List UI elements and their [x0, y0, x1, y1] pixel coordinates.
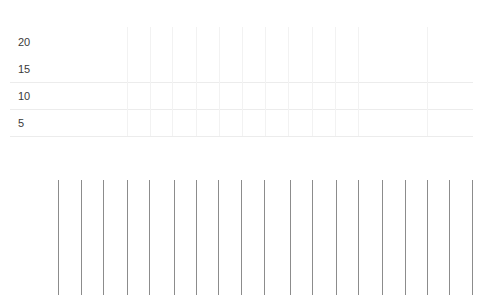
vertical-gridline [312, 27, 313, 136]
vertical-stroke [218, 180, 219, 295]
vertical-stroke [449, 180, 450, 295]
vertical-gridline [196, 27, 197, 136]
vertical-stroke [382, 180, 383, 295]
vertical-stroke [127, 180, 128, 295]
y-tick-label: 10 [18, 90, 30, 102]
vertical-stroke [149, 180, 150, 295]
vertical-stroke [58, 180, 59, 295]
vertical-stroke [312, 180, 313, 295]
vertical-gridline [335, 27, 336, 136]
vertical-stroke [290, 180, 291, 295]
vertical-gridline [127, 27, 128, 136]
y-tick-label: 20 [18, 36, 30, 48]
y-tick-label: 15 [18, 63, 30, 75]
vertical-stroke [427, 180, 428, 295]
vertical-gridline [150, 27, 151, 136]
vertical-gridline [242, 27, 243, 136]
vertical-gridline [358, 27, 359, 136]
vertical-stroke [241, 180, 242, 295]
chart: 2015105 [0, 0, 494, 304]
vertical-gridline [288, 27, 289, 136]
vertical-stroke [358, 180, 359, 295]
vertical-stroke [336, 180, 337, 295]
vertical-gridline [219, 27, 220, 136]
vertical-stroke [103, 180, 104, 295]
vertical-stroke [405, 180, 406, 295]
vertical-stroke [174, 180, 175, 295]
vertical-stroke [264, 180, 265, 295]
vertical-stroke [196, 180, 197, 295]
y-tick-label: 5 [18, 117, 24, 129]
horizontal-gridline [10, 136, 473, 137]
vertical-gridline [172, 27, 173, 136]
vertical-gridline [265, 27, 266, 136]
vertical-stroke [81, 180, 82, 295]
vertical-stroke [472, 180, 473, 295]
vertical-gridline [427, 27, 428, 136]
